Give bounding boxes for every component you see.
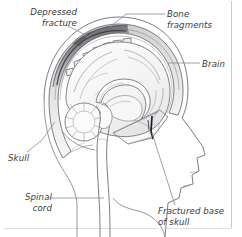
label-brain: Brain xyxy=(202,59,242,70)
label-skull: Skull xyxy=(8,153,52,164)
label-spinal-cord: Spinal cord xyxy=(6,192,52,213)
cerebellum xyxy=(65,103,103,141)
label-depressed-fracture: Depressed fracture xyxy=(9,7,77,28)
leader-skull xyxy=(27,122,55,152)
figure-panel: Depressed fracture Bone fragments Brain … xyxy=(0,0,242,237)
label-fractured-base-of-skull: Fractured base of skull xyxy=(158,206,242,227)
label-bone-fragments: Bone fragments xyxy=(167,9,239,30)
